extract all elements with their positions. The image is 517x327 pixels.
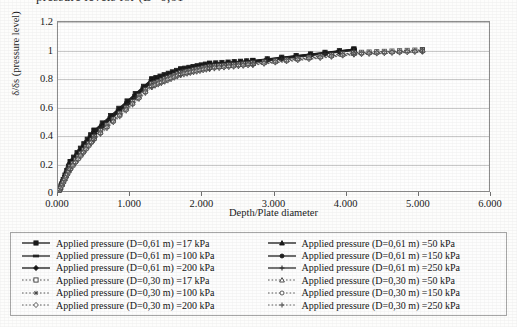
legend-marker-icon [21,262,51,274]
legend-item[interactable]: Applied pressure (D=0,30 m) =200 kPa [13,299,259,311]
legend-marker-icon [267,299,297,311]
y-tick-label-5: 1 [23,44,53,55]
legend-item[interactable]: Applied pressure (D=0,30 m) =17 kPa [13,274,259,286]
legend-item-label: Applied pressure (D=0,30 m) =150 kPa [302,287,460,298]
y-tick-label-4: 0.8 [23,73,53,84]
legend-marker-icon [267,237,297,249]
legend-marker-icon [21,250,51,262]
legend-marker-icon [267,287,297,299]
legend-marker-icon [267,250,297,262]
legend-item-label: Applied pressure (D=0,61 m) =150 kPa [302,250,460,261]
x-tick-mark-3 [274,192,275,196]
y-tick-label-3: 0.6 [23,101,53,112]
legend-item[interactable]: Applied pressure (D=0,30 m) =150 kPa [259,287,505,299]
legend-item-label: Applied pressure (D=0,30 m) =50 kPa [302,275,455,286]
plot-frame [57,21,490,192]
y-axis-ticks: 00.20.40.60.811.2 [19,21,53,192]
legend-marker-icon [21,237,51,249]
legend-item-label: Applied pressure (D=0,30 m) =250 kPa [302,300,460,311]
legend-item-label: Applied pressure (D=0,30 m) =17 kPa [56,275,209,286]
x-tick-mark-5 [418,192,419,196]
x-axis-title: Depth/Plate diameter [57,207,490,218]
chart-page: pressure levels for (D=0,61 00.20.40.60.… [0,0,517,327]
x-tick-mark-6 [490,192,491,196]
legend-item-label: Applied pressure (D=0,61 m) =200 kPa [56,262,214,273]
legend-marker-icon [267,262,297,274]
legend-marker-icon [21,299,51,311]
legend-item[interactable]: Applied pressure (D=0,30 m) =50 kPa [259,274,505,286]
legend-item[interactable]: Applied pressure (D=0,61 m) =200 kPa [13,262,259,274]
legend-marker-icon [21,287,51,299]
y-tick-label-1: 0.2 [23,158,53,169]
legend-item-label: Applied pressure (D=0,61 m) =50 kPa [302,238,455,249]
series-11 [58,50,425,193]
y-tick-label-0: 0 [23,187,53,198]
y-axis-title: δ/δs (pressure level) [10,0,21,129]
legend-item-label: Applied pressure (D=0,61 m) =17 kPa [56,238,209,249]
y-tick-label-2: 0.4 [23,130,53,141]
x-tick-mark-0 [57,192,58,196]
legend-item-label: Applied pressure (D=0,30 m) =200 kPa [56,300,214,311]
legend-marker-icon [267,274,297,286]
legend-item[interactable]: Applied pressure (D=0,30 m) =100 kPa [13,287,259,299]
x-tick-mark-2 [201,192,202,196]
legend-item[interactable]: Applied pressure (D=0,61 m) =250 kPa [259,262,505,274]
y-tick-label-6: 1.2 [23,16,53,27]
legend-marker-icon [21,274,51,286]
legend-item[interactable]: Applied pressure (D=0,30 m) =250 kPa [259,299,505,311]
legend-item[interactable]: Applied pressure (D=0,61 m) =17 kPa [13,237,259,249]
chart-legend: Applied pressure (D=0,61 m) =17 kPaAppli… [10,232,507,316]
legend-item-label: Applied pressure (D=0,61 m) =100 kPa [56,250,214,261]
legend-item-label: Applied pressure (D=0,30 m) =100 kPa [56,287,214,298]
legend-column-left: Applied pressure (D=0,61 m) =17 kPaAppli… [13,237,259,313]
legend-item-label: Applied pressure (D=0,61 m) =250 kPa [302,262,460,273]
x-tick-mark-1 [129,192,130,196]
legend-item[interactable]: Applied pressure (D=0,61 m) =150 kPa [259,249,505,261]
plot-series-canvas [58,22,491,193]
legend-item[interactable]: Applied pressure (D=0,61 m) =100 kPa [13,249,259,261]
legend-column-right: Applied pressure (D=0,61 m) =50 kPaAppli… [259,237,505,313]
x-tick-mark-4 [346,192,347,196]
legend-item[interactable]: Applied pressure (D=0,61 m) =50 kPa [259,237,505,249]
chart-area: 00.20.40.60.811.2 δ/δs (pressure level) … [0,0,517,226]
